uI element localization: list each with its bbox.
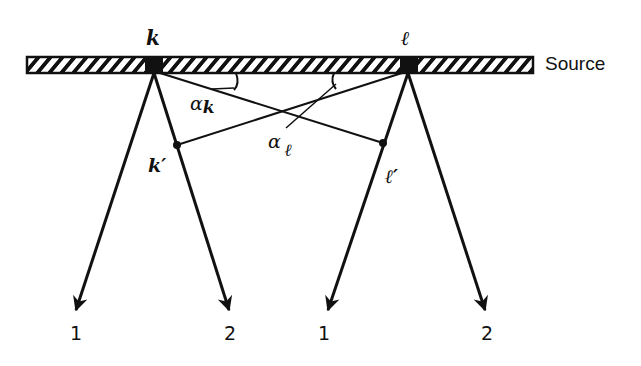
angle-leader-alpha-k: [212, 88, 234, 89]
label-k: k: [146, 26, 160, 50]
source-bar: [27, 57, 533, 73]
label-k-prime: k′: [148, 154, 166, 176]
alpha-l-subscript: ℓ: [285, 140, 292, 160]
ray-label-k-1: 1: [70, 322, 82, 344]
alpha-k-subscript: k: [203, 97, 215, 117]
label-l-prime: ℓ′: [385, 165, 398, 187]
ray-l-1: [328, 73, 408, 310]
ray-l-2: [408, 73, 485, 310]
alpha-l-symbol: α: [268, 130, 281, 152]
ray-label-l-2: 2: [481, 322, 493, 344]
point-k-prime: [173, 141, 181, 149]
label-alpha-k: αk: [190, 92, 215, 117]
alpha-k-symbol: α: [190, 92, 203, 114]
point-k-block: [145, 56, 163, 74]
ray-label-l-1: 1: [318, 322, 330, 344]
point-l-block: [400, 56, 418, 74]
angle-arc-alpha-k: [234, 73, 238, 90]
ray-k-1: [76, 73, 154, 310]
ray-label-k-2: 2: [224, 322, 236, 344]
label-alpha-l: αℓ: [268, 130, 292, 160]
diffraction-diagram: Source k ℓ αk αℓ k′ ℓ′ 1 2 1 2: [0, 0, 641, 366]
source-label: Source: [545, 53, 605, 74]
point-l-prime: [379, 139, 387, 147]
label-l: ℓ: [401, 26, 410, 50]
